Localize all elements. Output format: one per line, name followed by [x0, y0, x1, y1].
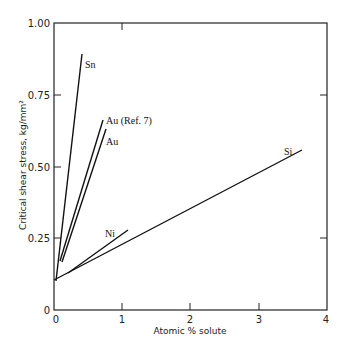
chart: 1.00 0.75 0.50 0.25 0 0 1 2 3 4 Atomic %…	[0, 0, 344, 352]
y-tick-0.25: 0.25	[28, 233, 50, 244]
y-tick-1.00: 1.00	[28, 18, 50, 29]
y-tick-0.50: 0.50	[28, 162, 50, 173]
x-tick-4: 4	[323, 314, 329, 325]
label-au-ref7: Au (Ref. 7)	[106, 115, 152, 127]
x-tick-1: 1	[119, 314, 125, 325]
series-ni	[68, 230, 128, 273]
x-tick-3: 3	[256, 314, 262, 325]
series-au	[62, 129, 106, 262]
x-axis-label: Atomic % solute	[154, 326, 227, 336]
y-tick-0: 0	[44, 305, 50, 316]
x-tick-0: 0	[53, 314, 59, 325]
label-ni: Ni	[105, 228, 115, 239]
y-axis-label: Critical shear stress, kg/mm²	[18, 100, 28, 230]
label-sn: Sn	[85, 59, 96, 70]
series-si	[54, 150, 302, 280]
label-si: Si	[284, 146, 293, 157]
y-tick-0.75: 0.75	[28, 90, 50, 101]
x-tick-2: 2	[187, 314, 193, 325]
label-au: Au	[106, 136, 118, 147]
